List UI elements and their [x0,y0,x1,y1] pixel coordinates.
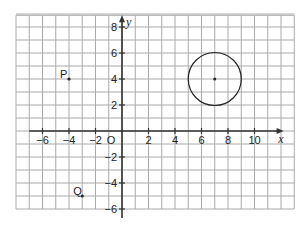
x-tick-label: −6 [36,134,49,146]
y-tick-label: 2 [111,99,117,111]
y-tick-label: −2 [104,151,117,163]
point-p [67,77,70,80]
circle-center [213,78,216,81]
x-tick-label: 6 [198,134,204,146]
x-tick-label: 8 [225,134,231,146]
y-tick-label: 8 [111,21,117,33]
x-tick-label: −4 [63,134,76,146]
x-tick-label: 4 [172,134,178,146]
x-tick-label: −2 [89,134,102,146]
origin-label: O [107,134,116,146]
point-label-q: Q [73,185,82,197]
x-tick-label: 10 [248,134,260,146]
x-tick-label: 2 [145,134,151,146]
y-tick-label: 4 [111,73,117,85]
point-label-p: P [60,68,67,80]
y-axis-label: y [125,15,132,29]
y-tick-label: 6 [111,47,117,59]
y-tick-label: −6 [104,203,117,215]
x-axis-label: x [277,132,284,146]
y-tick-label: −4 [104,177,117,189]
coordinate-grid: xy−6−4−22468108642−2−4−6OPQ [0,0,306,229]
y-axis-arrow-icon [119,15,125,22]
